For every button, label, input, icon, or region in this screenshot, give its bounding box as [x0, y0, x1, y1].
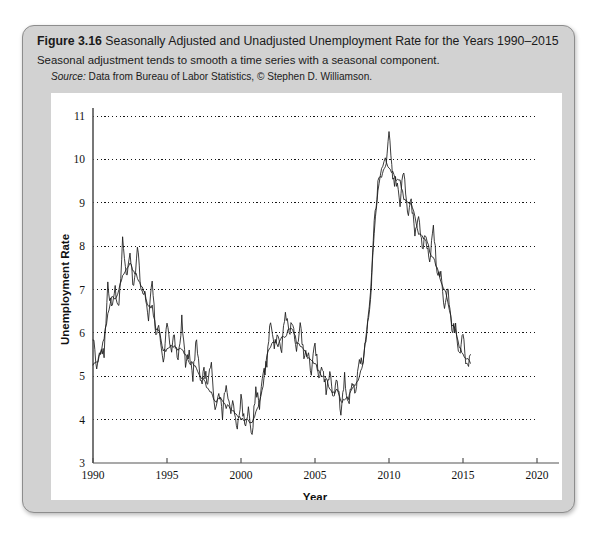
- x-tick-label: 2005: [304, 469, 327, 481]
- x-tick-labels: 1990199520002005201020152020: [82, 469, 549, 481]
- x-tick-label: 2010: [378, 469, 401, 481]
- source-text: Data from Bureau of Labor Statistics, © …: [89, 71, 372, 82]
- x-tick-label: 2020: [526, 469, 549, 481]
- figure-subtitle: Seasonal adjustment tends to smooth a ti…: [37, 53, 564, 67]
- y-axis-title: Unemployment Rate: [59, 234, 71, 345]
- y-tick-label: 11: [74, 110, 85, 122]
- source-label: Source:: [51, 71, 86, 82]
- figure-source: Source: Data from Bureau of Labor Statis…: [51, 71, 564, 84]
- axis-ticks: [93, 458, 537, 463]
- y-tick-label: 7: [79, 284, 85, 296]
- x-tick-label: 2000: [230, 469, 253, 481]
- plot-panel: 34567891011 1990199520002005201020152020…: [51, 93, 562, 500]
- figure-title: Figure 3.16 Seasonally Adjusted and Unad…: [37, 34, 564, 49]
- series-line-2: [93, 132, 470, 435]
- figure-caption: Figure 3.16 Seasonally Adjusted and Unad…: [37, 34, 564, 83]
- y-tick-label: 3: [79, 457, 85, 469]
- series-line-1: [93, 158, 470, 423]
- gridlines: [93, 116, 537, 420]
- x-axis-title: Year: [303, 491, 328, 500]
- unemployment-rate-chart: 34567891011 1990199520002005201020152020…: [51, 93, 562, 500]
- figure-label: Figure 3.16: [37, 34, 102, 48]
- x-tick-label: 2015: [452, 469, 475, 481]
- y-tick-label: 10: [74, 153, 86, 165]
- axes: [93, 108, 559, 463]
- x-tick-label: 1995: [156, 469, 179, 481]
- x-tick-label: 1990: [82, 469, 105, 481]
- y-tick-labels: 34567891011: [74, 110, 86, 469]
- y-tick-label: 4: [79, 414, 85, 426]
- y-tick-label: 9: [79, 197, 85, 209]
- y-tick-label: 8: [79, 240, 85, 252]
- y-tick-label: 6: [79, 327, 85, 339]
- figure-title-text: Seasonally Adjusted and Unadjusted Unemp…: [105, 34, 558, 48]
- data-series: [93, 132, 470, 435]
- y-tick-label: 5: [79, 370, 85, 382]
- figure-card: Figure 3.16 Seasonally Adjusted and Unad…: [22, 25, 575, 513]
